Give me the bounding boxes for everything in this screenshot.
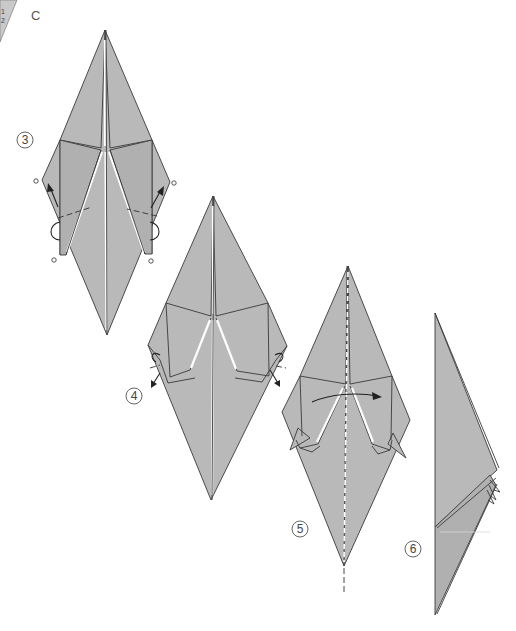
step-5-figure	[282, 266, 410, 592]
corner-page-tab: 1 2	[0, 0, 17, 42]
svg-text:4: 4	[131, 389, 138, 403]
step-6-figure	[435, 313, 500, 615]
section-label: C	[31, 8, 40, 23]
step-4-label: 6 4	[126, 388, 142, 404]
step-5-label: 5	[292, 521, 308, 537]
step-6-label: 6	[405, 541, 421, 557]
step-3-figure	[34, 30, 176, 335]
step-4-figure	[148, 196, 287, 500]
diagram-canvas: 1 2	[0, 0, 516, 631]
svg-text:1: 1	[1, 8, 5, 15]
svg-text:5: 5	[297, 522, 304, 536]
step-3-label: 3	[17, 132, 33, 148]
svg-text:3: 3	[22, 133, 29, 147]
svg-text:2: 2	[1, 17, 5, 24]
origami-diagram-page: C 1 2	[0, 0, 516, 631]
svg-text:6: 6	[410, 542, 417, 556]
